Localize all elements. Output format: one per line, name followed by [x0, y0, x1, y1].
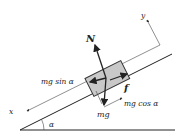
angle-arc — [42, 119, 45, 130]
label-axis-x: x — [9, 107, 14, 116]
diagram-canvas: N f mg mg sin α mg cos α x y α — [0, 0, 180, 139]
block — [85, 61, 130, 97]
label-weight: mg — [97, 110, 110, 119]
label-angle: α — [49, 120, 54, 129]
y-axis — [147, 20, 160, 45]
cos-guide-2 — [104, 98, 122, 107]
label-friction: f — [123, 82, 130, 93]
label-sin-component: mg sin α — [41, 77, 74, 86]
label-axis-y: y — [140, 11, 146, 20]
incline-diagram: N f mg mg sin α mg cos α x y α — [0, 0, 180, 139]
label-normal: N — [85, 33, 96, 44]
label-cos-component: mg cos α — [124, 99, 158, 108]
